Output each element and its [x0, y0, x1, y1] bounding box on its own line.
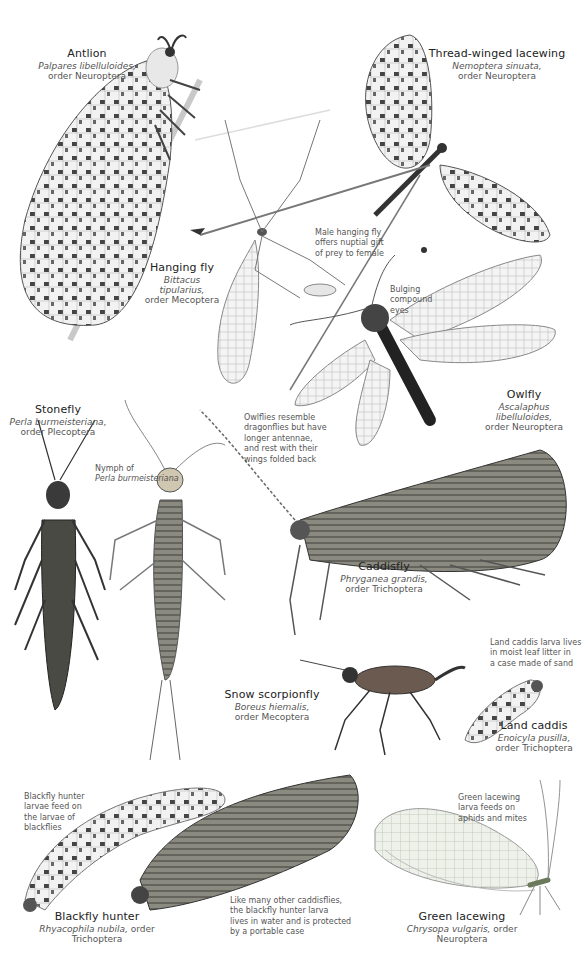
note-line: Nymph of [95, 464, 179, 474]
label-antlion: Antlion Palpares libelluloides, order Ne… [32, 48, 142, 81]
scientific-name: Nemoptera sinuata, [412, 61, 582, 71]
label-blackfly-hunter: Blackfly hunter Rhyacophila nubila, orde… [22, 911, 172, 944]
note-line: Blackfly hunter [24, 792, 85, 802]
label-owlfly: Owlfly Ascalaphus libelluloides, order N… [470, 389, 578, 433]
scientific-name: Boreus hiemalis, [222, 702, 322, 712]
note-line: longer antennae, [244, 434, 327, 444]
common-name: Stonefly [6, 404, 110, 417]
order-name: order Trichoptera [492, 743, 576, 753]
note-line: in moist leaf litter in [490, 648, 581, 658]
note-line: Bulging [390, 285, 432, 295]
note-stonefly-nymph: Nymph of Perla burmeisteriana [95, 464, 179, 485]
note-line: by a portable case [230, 927, 351, 937]
common-name: Owlfly [470, 389, 578, 402]
order-name: order Mecoptera [142, 295, 222, 305]
label-green-lacewing: Green lacewing Chrysopa vulgaris, order … [388, 911, 536, 944]
note-green-lacewing-larva: Green lacewing larva feeds on aphids and… [458, 793, 527, 824]
insect-illustrations [0, 0, 584, 975]
order-name: order Neuroptera [32, 71, 142, 81]
note-line: Land caddis larva lives [490, 638, 581, 648]
note-hanging-fly-gift: Male hanging fly offers nuptial gift of … [315, 228, 384, 259]
order-name: order Trichoptera [334, 584, 434, 594]
note-line: the larvae of [24, 813, 85, 823]
common-name: Blackfly hunter [22, 911, 172, 924]
order-name: order Mecoptera [222, 712, 322, 722]
note-line: and rest with their [244, 444, 327, 454]
order-name: order Neuroptera [470, 422, 578, 432]
stonefly-illustration [15, 420, 105, 710]
note-line: aphids and mites [458, 814, 527, 824]
scientific-name: Chrysopa vulgaris, [407, 924, 491, 934]
common-name: Snow scorpionfly [222, 689, 322, 702]
label-thread-winged-lacewing: Thread-winged lacewing Nemoptera sinuata… [412, 48, 582, 81]
label-caddisfly: Caddisfly Phryganea grandis, order Trich… [334, 561, 434, 594]
note-blackfly-hunter-larvae: Blackfly hunter larvae feed on the larva… [24, 792, 85, 834]
note-line: blackflies [24, 823, 85, 833]
scientific-name: Phryganea grandis, [334, 574, 434, 584]
scientific-name: Rhyacophila nubila, [39, 924, 128, 934]
scientific-order-line: Chrysopa vulgaris, order Neuroptera [388, 924, 536, 945]
scientific-name: Bittacus tipularius, [142, 275, 222, 296]
note-line: the blackfly hunter larva [230, 906, 351, 916]
note-line: larva feeds on [458, 803, 527, 813]
note-line: lives in water and is protected [230, 917, 351, 927]
common-name: Antlion [32, 48, 142, 61]
label-land-caddis: Land caddis Enoicyla pusilla, order Tric… [492, 720, 576, 753]
common-name: Thread-winged lacewing [412, 48, 582, 61]
note-line: Green lacewing [458, 793, 527, 803]
note-line: Perla burmeisteriana [95, 474, 179, 484]
note-land-caddis-larva: Land caddis larva lives in moist leaf li… [490, 638, 581, 669]
label-hanging-fly: Hanging fly Bittacus tipularius, order M… [142, 262, 222, 306]
note-line: compound [390, 295, 432, 305]
note-owlfly-rest: Owlflies resemble dragonflies but have l… [244, 413, 327, 465]
order-name: order Neuroptera [412, 71, 582, 81]
note-line: Male hanging fly [315, 228, 384, 238]
note-line: Like many other caddisflies, [230, 896, 351, 906]
scientific-name: Perla burmeisteriana, [6, 417, 110, 427]
note-line: eyes [390, 306, 432, 316]
scientific-name: Ascalaphus libelluloides, [470, 402, 578, 423]
note-line: offers nuptial gift [315, 238, 384, 248]
snow-scorpionfly-illustration [300, 660, 465, 755]
note-line: larvae feed on [24, 802, 85, 812]
order-name: order Plecoptera [6, 427, 110, 437]
common-name: Hanging fly [142, 262, 222, 275]
common-name: Green lacewing [388, 911, 536, 924]
label-snow-scorpionfly: Snow scorpionfly Boreus hiemalis, order … [222, 689, 322, 722]
scientific-name: Enoicyla pusilla, [492, 733, 576, 743]
stonefly-nymph-illustration [110, 400, 225, 760]
note-owlfly-eyes: Bulging compound eyes [390, 285, 432, 316]
scientific-name: Palpares libelluloides, [32, 61, 142, 71]
common-name: Caddisfly [334, 561, 434, 574]
scientific-order-line: Rhyacophila nubila, order Trichoptera [22, 924, 172, 945]
note-line: Owlflies resemble [244, 413, 327, 423]
note-line: of prey to female [315, 249, 384, 259]
common-name: Land caddis [492, 720, 576, 733]
label-stonefly: Stonefly Perla burmeisteriana, order Ple… [6, 404, 110, 437]
note-line: a case made of sand [490, 659, 581, 669]
note-blackfly-hunter-case: Like many other caddisflies, the blackfl… [230, 896, 351, 938]
note-line: wings folded back [244, 455, 327, 465]
note-line: dragonflies but have [244, 423, 327, 433]
